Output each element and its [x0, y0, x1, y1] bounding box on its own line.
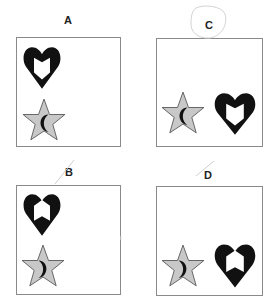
panel-label-d: D — [198, 169, 218, 181]
heart-icon — [213, 242, 257, 290]
panel-b[interactable] — [16, 185, 121, 295]
heart-icon — [22, 45, 62, 91]
star-icon — [161, 91, 205, 135]
heart-icon — [213, 91, 257, 137]
panel-c[interactable] — [156, 38, 263, 147]
heart-icon — [22, 192, 62, 238]
star-icon — [21, 244, 65, 288]
panel-label-b: B — [59, 166, 79, 178]
star-icon — [161, 244, 205, 288]
panel-a[interactable] — [16, 37, 121, 147]
panel-label-a: A — [58, 14, 78, 26]
panel-d[interactable] — [156, 186, 263, 296]
star-icon — [22, 98, 66, 142]
panel-label-c: C — [199, 19, 219, 31]
